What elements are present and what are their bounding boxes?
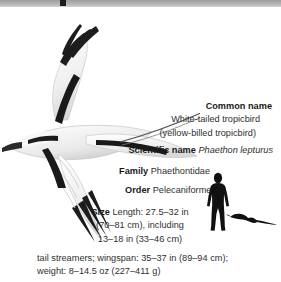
human-silhouette bbox=[207, 173, 229, 231]
common-name-block: Common name White-tailed tropicbird (yel… bbox=[0, 100, 272, 140]
size-line-2: (70–81 cm), including bbox=[85, 219, 195, 232]
size-label: Size bbox=[91, 207, 109, 217]
band-marker bbox=[60, 0, 66, 6]
extra-line-2: weight: 8–14.5 oz (227–411 g) bbox=[37, 265, 267, 278]
common-name-value-1: White-tailed tropicbird bbox=[0, 113, 260, 126]
family-label: Family bbox=[119, 166, 148, 176]
scientific-name-row: Scientific name Phaethon lepturus bbox=[0, 144, 273, 157]
size-line-1: Size Length: 27.5–32 in bbox=[85, 206, 195, 219]
extra-line-1: tail streamers; wingspan: 35–37 in (89–9… bbox=[37, 252, 267, 265]
order-row: Order Pelecaniformes bbox=[0, 184, 216, 197]
size-block: Size Length: 27.5–32 in (70–81 cm), incl… bbox=[85, 206, 195, 246]
common-name-label: Common name bbox=[0, 100, 272, 113]
family-row: Family Phaethontidae bbox=[0, 165, 210, 178]
order-label: Order bbox=[125, 185, 150, 195]
scientific-name-label: Scientific name bbox=[128, 145, 195, 155]
top-gray-band bbox=[0, 0, 281, 7]
tropicbird-silhouette bbox=[226, 214, 277, 225]
scale-comparison bbox=[198, 172, 278, 234]
species-fact-panel: Common name White-tailed tropicbird (yel… bbox=[0, 0, 281, 282]
size-value-1: Length: 27.5–32 in bbox=[112, 207, 188, 217]
size-line-3: 13–18 in (33–46 cm) bbox=[85, 233, 195, 246]
extra-measurements-block: tail streamers; wingspan: 35–37 in (89–9… bbox=[37, 252, 267, 279]
scientific-name-value: Phaethon lepturus bbox=[198, 145, 273, 155]
common-name-value-2: (yellow-billed tropicbird) bbox=[0, 127, 256, 140]
